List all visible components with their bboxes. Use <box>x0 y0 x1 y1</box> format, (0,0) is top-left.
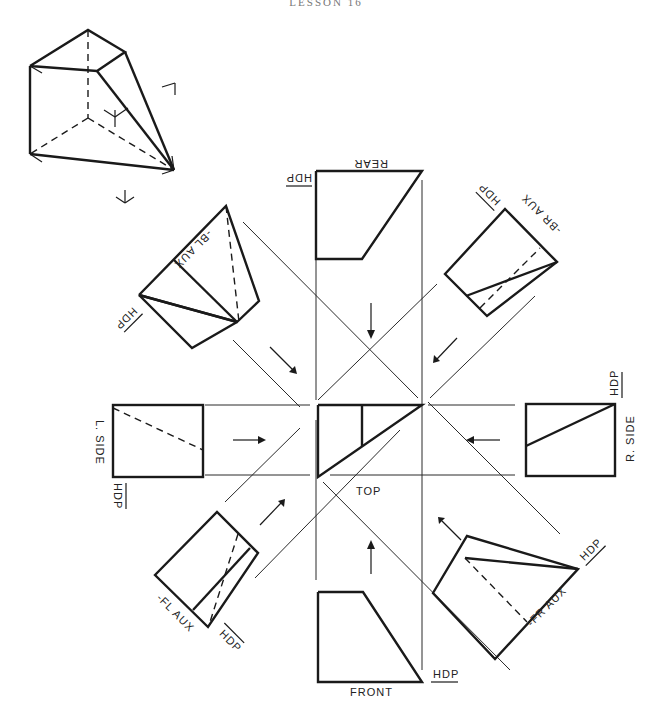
arrow-down-icon <box>367 303 375 339</box>
bl-aux-view: -BL AUX HDP <box>113 206 259 348</box>
right-side-hdp-label: HDP <box>608 370 620 396</box>
fr-aux-hdp-label: HDP <box>577 536 604 563</box>
fl-aux-hdp-label: HDP <box>217 627 244 654</box>
top-label: TOP <box>356 485 381 497</box>
arrow-left-icon <box>466 436 500 444</box>
left-side-label: L. SIDE <box>94 420 106 465</box>
br-aux-hdp-label: HDP <box>476 181 503 208</box>
direction-arrows <box>233 303 500 574</box>
fl-aux-view: -FL AUX HDP <box>154 512 258 654</box>
arrow-downleft-icon <box>433 338 457 363</box>
arrow-upleft-icon <box>438 517 461 540</box>
rear-label: REAR <box>353 158 388 170</box>
front-label: FRONT <box>350 686 393 698</box>
view-direction-right-icon <box>162 83 175 95</box>
rear-hdp-label: HDP <box>286 172 312 184</box>
arrow-upright-icon <box>260 499 285 525</box>
br-aux-view: -BR AUX HDP <box>445 181 563 316</box>
front-hdp-label: HDP <box>433 668 459 680</box>
rear-view: REAR HDP <box>286 158 422 259</box>
pictorial-view <box>30 30 175 203</box>
right-side-label: R. SIDE <box>624 415 636 462</box>
arrow-downright-icon <box>270 347 297 374</box>
bl-aux-hdp-label: HDP <box>113 305 140 332</box>
top-view: TOP <box>318 405 422 497</box>
arrow-up-icon <box>367 540 375 574</box>
fr-aux-view: -FR AUX HDP <box>433 536 606 659</box>
front-view: FRONT HDP <box>318 592 459 698</box>
view-direction-down-icon <box>116 190 134 203</box>
left-side-view: L. SIDE HDP <box>94 405 203 509</box>
fl-aux-label: -FL AUX <box>154 591 197 634</box>
left-side-hdp-label: HDP <box>112 483 124 509</box>
technical-drawing: TOP REAR HDP FRONT HDP L. SIDE HDP R. SI… <box>0 0 652 713</box>
fr-aux-label: -FR AUX <box>524 584 568 628</box>
projection-lines <box>205 180 560 670</box>
bl-aux-label: -BL AUX <box>172 228 215 271</box>
right-side-view: R. SIDE HDP <box>526 370 636 476</box>
arrow-right-icon <box>233 436 266 444</box>
